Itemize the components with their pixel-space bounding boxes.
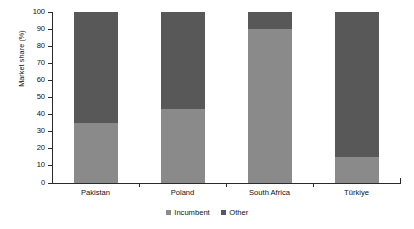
- bar-group: [335, 12, 379, 183]
- x-axis-category-label: Türkiye: [312, 188, 402, 197]
- y-axis-title: Market share (%): [17, 4, 26, 114]
- legend-swatch-icon: [221, 210, 227, 216]
- x-axis-category-label: South Africa: [225, 188, 315, 197]
- bar-segment: [161, 12, 205, 109]
- y-tick-mark: [48, 148, 52, 149]
- y-axis-line: [52, 12, 53, 184]
- y-tick-label: 40: [37, 109, 45, 118]
- bar-group: [161, 12, 205, 183]
- bar-segment: [248, 12, 292, 29]
- bar-segment: [248, 29, 292, 183]
- x-axis-tick-mark: [226, 183, 227, 187]
- legend-label: Other: [229, 208, 248, 217]
- y-tick-mark: [48, 97, 52, 98]
- y-tick-label: 0: [41, 178, 45, 187]
- legend-label: Incumbent: [174, 208, 209, 217]
- y-tick-mark: [48, 80, 52, 81]
- bar-segment: [74, 12, 118, 123]
- legend-item[interactable]: Other: [221, 208, 249, 217]
- y-tick-mark: [48, 183, 52, 184]
- legend-item[interactable]: Incumbent: [166, 208, 210, 217]
- y-tick-mark: [48, 165, 52, 166]
- x-axis-tick-mark: [313, 183, 314, 187]
- y-tick-mark: [48, 29, 52, 30]
- y-tick-mark: [48, 131, 52, 132]
- bar-segment: [335, 12, 379, 157]
- y-tick-label: 100: [33, 7, 45, 16]
- bar-group: [74, 12, 118, 183]
- chart-legend: IncumbentOther: [0, 208, 414, 217]
- y-tick-label: 70: [37, 58, 45, 67]
- x-axis-end-tick: [400, 178, 401, 184]
- y-tick-label: 50: [37, 92, 45, 101]
- x-axis-category-label: Poland: [138, 188, 228, 197]
- bar-group: [248, 12, 292, 183]
- bar-segment: [335, 157, 379, 183]
- y-tick-mark: [48, 46, 52, 47]
- y-tick-label: 60: [37, 75, 45, 84]
- y-tick-label: 80: [37, 41, 45, 50]
- y-tick-label: 30: [37, 126, 45, 135]
- stacked-bar-chart: Market share (%) 0102030405060708090100 …: [0, 0, 414, 229]
- legend-swatch-icon: [166, 210, 172, 216]
- bar-segment: [74, 123, 118, 183]
- y-tick-mark: [48, 114, 52, 115]
- y-tick-label: 90: [37, 24, 45, 33]
- x-axis-category-label: Pakistan: [51, 188, 141, 197]
- y-tick-label: 10: [37, 160, 45, 169]
- y-tick-mark: [48, 63, 52, 64]
- bar-segment: [161, 109, 205, 183]
- y-tick-mark: [48, 12, 52, 13]
- x-axis-tick-mark: [139, 183, 140, 187]
- y-tick-label: 20: [37, 143, 45, 152]
